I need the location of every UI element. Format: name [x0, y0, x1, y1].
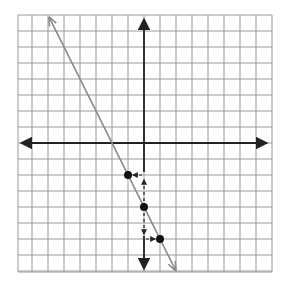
coordinate-graph: [0, 0, 282, 288]
plotted-point: [156, 235, 164, 243]
graph-canvas: [0, 0, 282, 288]
plotted-point: [124, 171, 132, 179]
plotted-point: [140, 203, 148, 211]
